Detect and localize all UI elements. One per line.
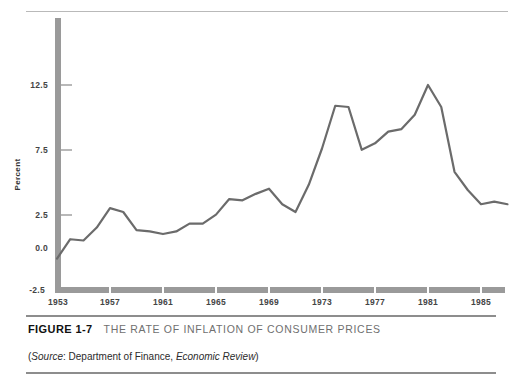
figure-caption: FIGURE 1-7THE RATE OF INFLATION OF CONSU… bbox=[28, 323, 381, 335]
figure-title-text: THE RATE OF INFLATION OF CONSUMER PRICES bbox=[104, 323, 381, 335]
y-tick-label-12-5: 12.5 bbox=[14, 80, 48, 90]
source-close-paren: ) bbox=[255, 351, 258, 362]
x-tick-label-1969: 1969 bbox=[249, 297, 289, 307]
source-publication-title: Economic Review bbox=[176, 351, 255, 362]
x-tick-label-1977: 1977 bbox=[355, 297, 395, 307]
y-axis-title: Percent bbox=[13, 147, 22, 203]
x-tick-label-1965: 1965 bbox=[196, 297, 236, 307]
x-tick-label-1981: 1981 bbox=[408, 297, 448, 307]
source-agency-text: : Department of Finance, bbox=[63, 351, 176, 362]
y-axis-ticks bbox=[61, 85, 72, 215]
figure-container: 12.5 7.5 2.5 0.0 -2.5 Percent 1953 1957 … bbox=[0, 0, 511, 380]
figure-source-line: (Source: Department of Finance, Economic… bbox=[28, 351, 259, 362]
y-tick-label-neg-2-5: -2.5 bbox=[11, 285, 45, 295]
chart-plot-area: 12.5 7.5 2.5 0.0 -2.5 Percent 1953 1957 … bbox=[0, 0, 511, 310]
x-tick-label-1957: 1957 bbox=[90, 297, 130, 307]
x-tick-label-1985: 1985 bbox=[461, 297, 501, 307]
y-axis-bar bbox=[55, 18, 61, 293]
source-word: Source bbox=[31, 351, 63, 362]
x-tick-label-1973: 1973 bbox=[302, 297, 342, 307]
y-tick-label-0-0: 0.0 bbox=[14, 243, 48, 253]
bottom-divider-rule bbox=[26, 372, 496, 374]
x-tick-label-1953: 1953 bbox=[38, 297, 78, 307]
x-tick-label-1961: 1961 bbox=[143, 297, 183, 307]
inflation-data-line bbox=[57, 85, 508, 259]
figure-number-label: FIGURE 1-7 bbox=[28, 323, 93, 335]
y-tick-label-2-5: 2.5 bbox=[14, 210, 48, 220]
x-axis-bar bbox=[55, 287, 505, 293]
inflation-line-chart bbox=[0, 0, 511, 310]
caption-top-rule bbox=[26, 315, 496, 317]
